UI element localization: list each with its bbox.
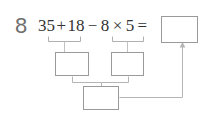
connector-right-to-bottom: [102, 77, 129, 83]
worksheet-problem: 8 35 + 18 − 8 × 5 =: [0, 0, 207, 140]
answer-box[interactable]: [161, 16, 198, 43]
math-expression: 35 + 18 − 8 × 5 =: [38, 15, 147, 37]
connector-left-to-bottom: [73, 77, 102, 87]
brace-left-operand: [49, 37, 81, 42]
brace-right-operand: [113, 37, 144, 42]
step-box-right[interactable]: [111, 52, 144, 76]
step-box-left[interactable]: [55, 52, 89, 76]
step-box-bottom[interactable]: [83, 86, 119, 110]
problem-number: 8: [8, 12, 34, 40]
